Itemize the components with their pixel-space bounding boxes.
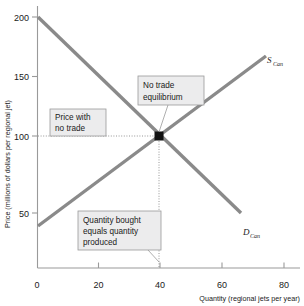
no-trade-equilibrium-line1: No trade bbox=[143, 81, 175, 90]
x-tick-label-40: 40 bbox=[155, 280, 165, 290]
y-tick-label-200: 200 bbox=[14, 13, 29, 23]
no-trade-equilibrium-line2: equilibrium bbox=[143, 93, 183, 102]
chart-background bbox=[0, 0, 304, 306]
quantity-bought-line1: Quantity bought bbox=[83, 216, 142, 225]
supply-label-sub: Can bbox=[273, 61, 283, 67]
x-tick-label-0: 0 bbox=[34, 280, 39, 290]
equilibrium-marker bbox=[155, 132, 164, 141]
demand-label-main: D bbox=[242, 227, 250, 237]
x-tick-label-60: 60 bbox=[217, 280, 227, 290]
y-tick-label-100: 100 bbox=[14, 132, 29, 142]
y-tick-label-150: 150 bbox=[14, 72, 29, 82]
demand-label-sub: Can bbox=[250, 233, 260, 239]
quantity-bought-line2: equals quantity bbox=[83, 227, 139, 236]
price-no-trade-line1: Price with bbox=[55, 113, 91, 122]
x-tick-label-80: 80 bbox=[279, 280, 289, 290]
supply-demand-chart: 200 150 100 50 0 20 40 60 80 Price (mill… bbox=[0, 0, 304, 306]
y-axis-title: Price (millions of dollars per regional … bbox=[3, 100, 12, 228]
supply-label-main: S bbox=[267, 55, 272, 65]
x-tick-label-20: 20 bbox=[93, 280, 103, 290]
quantity-bought-line3: produced bbox=[83, 238, 118, 247]
price-no-trade-line2: no trade bbox=[55, 124, 85, 133]
x-axis-title: Quantity (regional jets per year) bbox=[199, 294, 300, 303]
y-tick-label-50: 50 bbox=[19, 209, 29, 219]
